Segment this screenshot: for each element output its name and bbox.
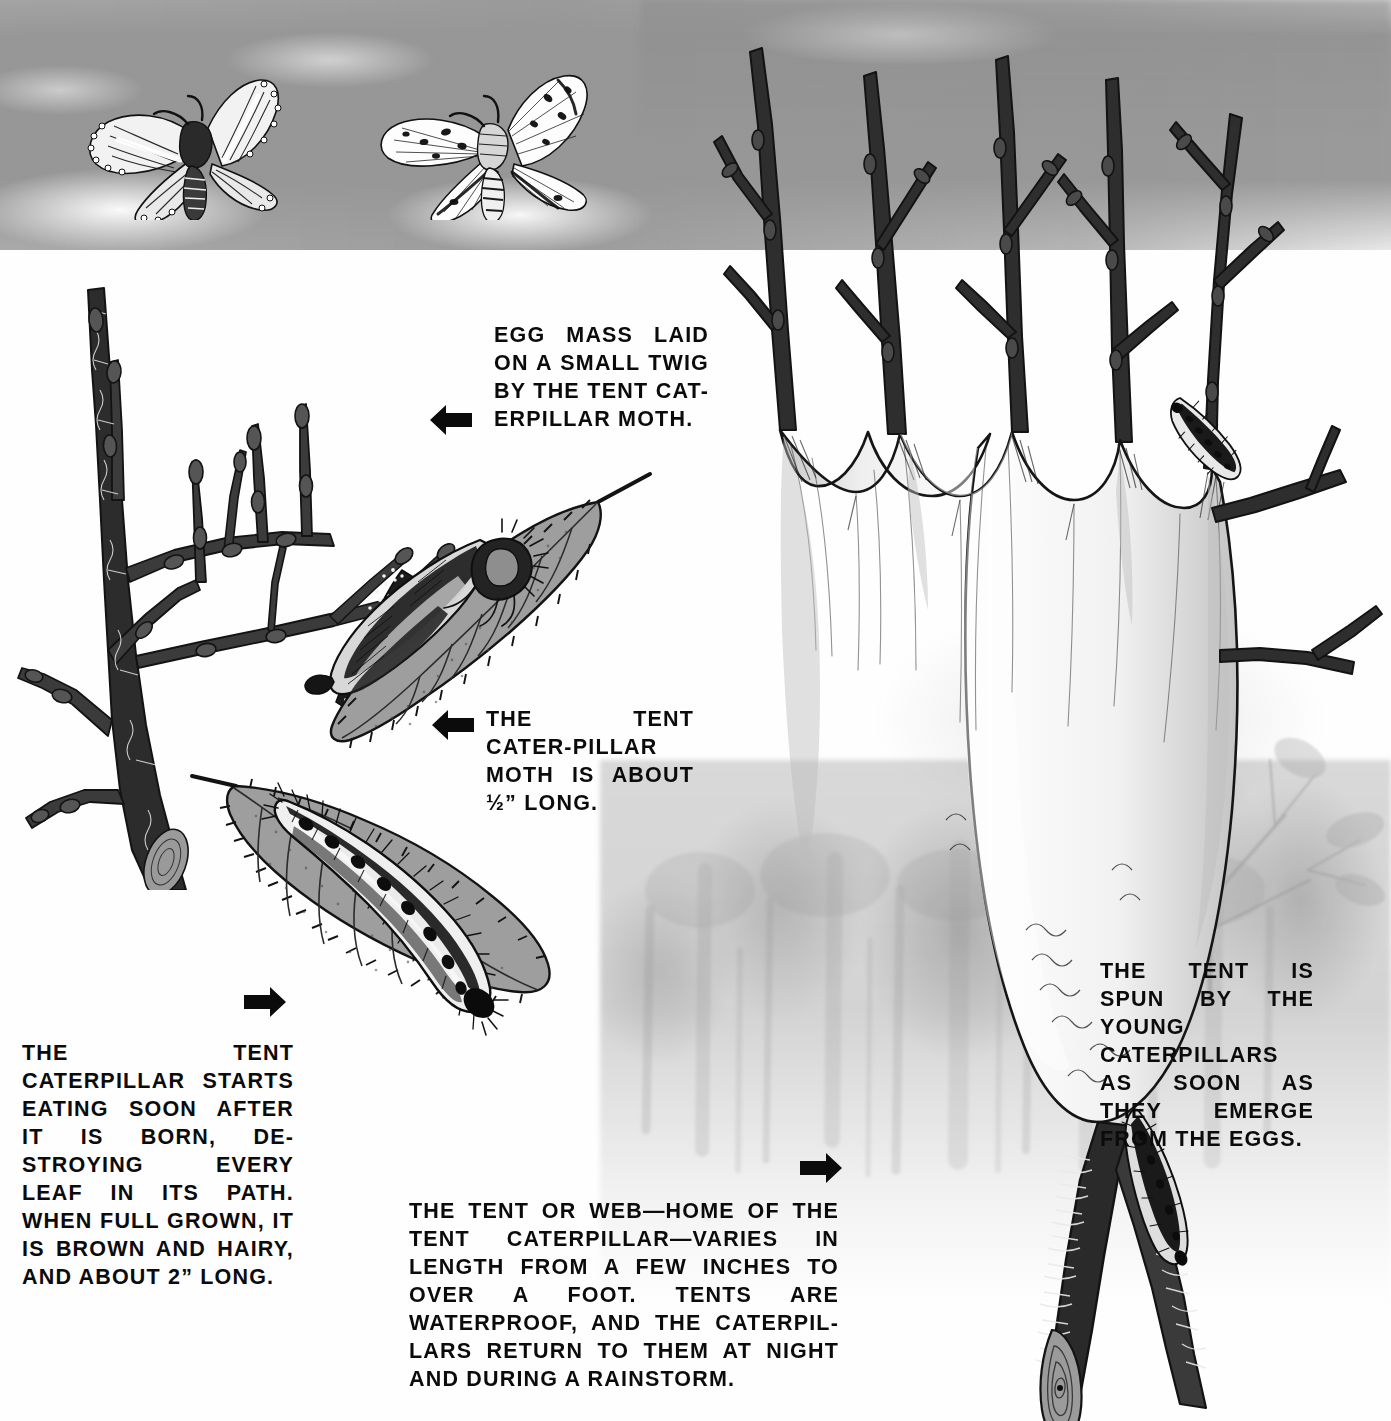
caption-tent-web: THE TENT OR WEB—HOME OF THE TENT CATERPI…: [409, 1198, 839, 1394]
right-arrow-icon: [798, 1148, 844, 1188]
caption-caterpillar: THE TENT CATERPILLAR STARTS EATING SOON …: [22, 1040, 294, 1291]
mid-haze-wash: [680, 560, 1391, 920]
left-arrow-icon: [430, 705, 476, 745]
caption-moth: THE TENT CATER-PILLAR MOTH IS ABOUT ½” L…: [486, 706, 694, 818]
sky-wash: [0, 0, 1391, 250]
egg-mass-figure: [336, 568, 418, 712]
left-arrow-icon: [428, 400, 474, 440]
sky-wash-upper-right: [640, 0, 1391, 150]
caption-egg-mass: EGG MASS LAID ON A SMALL TWIG BY THE TEN…: [494, 322, 709, 434]
moth-dark-figure: [62, 70, 312, 220]
illustration-plate: EGG MASS LAID ON A SMALL TWIG BY THE TEN…: [0, 0, 1391, 1421]
right-arrow-icon: [242, 982, 288, 1022]
caption-tent-spun: THE TENT IS SPUN BY THE YOUNG CATERPILLA…: [1100, 958, 1314, 1154]
moth-pale-figure: [362, 70, 624, 220]
caterpillar-body: [262, 783, 508, 1035]
caterpillar-on-twig: [1151, 391, 1261, 487]
budded-branch-figure: [0, 250, 520, 890]
